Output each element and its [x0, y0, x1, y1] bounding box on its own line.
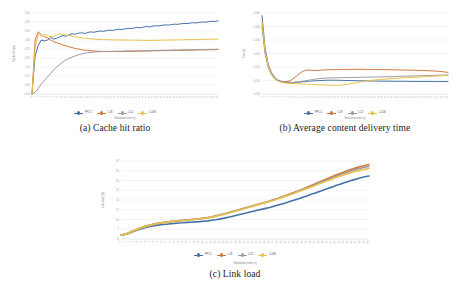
panel-caption-c: (c) Link load [95, 269, 375, 279]
results-figure: 0.000.050.100.150.200.250.300.350.400.45… [0, 0, 461, 296]
svg-text:0.35: 0.35 [25, 29, 31, 33]
svg-text:20: 20 [116, 198, 120, 202]
legend-swatch-cl4m [138, 113, 147, 115]
legend-label-cl4m: CL4M [149, 112, 156, 115]
legend-item-lce[interactable]: LCE [327, 112, 343, 115]
svg-text:0.45: 0.45 [25, 11, 31, 15]
legend-swatch-cl4m [258, 255, 267, 257]
legend-label-lcd: LCD [248, 254, 253, 257]
svg-text:2: 2 [127, 240, 131, 243]
legend-item-cl4m[interactable]: CL4M [368, 112, 385, 115]
svg-text:60: 60 [215, 95, 218, 99]
svg-text:60: 60 [366, 240, 370, 244]
svg-text:Time (s): Time (s) [242, 49, 246, 59]
chart-plot-area-b: 0.0000.0100.0200.0300.0400.0500.06001234… [238, 8, 452, 120]
chart-legend-c: PPCC LCE LCD CL4M [95, 254, 375, 257]
legend-label-lce: LCE [108, 112, 113, 115]
chart-plot-area-a: 0.000.050.100.150.200.250.300.350.400.45… [8, 8, 222, 120]
legend-label-lcd: LCD [358, 112, 363, 115]
svg-text:15: 15 [116, 208, 120, 212]
legend-label-lce: LCE [338, 112, 343, 115]
legend-swatch-lcd [348, 113, 357, 115]
legend-label-ppcc: PPCC [85, 112, 92, 115]
svg-text:0.020: 0.020 [254, 65, 261, 69]
legend-swatch-lcd [238, 255, 247, 257]
legend-label-lce: LCE [228, 254, 233, 257]
svg-text:5: 5 [117, 227, 119, 231]
legend-item-cl4m[interactable]: CL4M [258, 254, 275, 257]
svg-text:0.050: 0.050 [254, 25, 261, 29]
legend-swatch-lce [97, 113, 106, 115]
svg-text:3: 3 [131, 240, 135, 243]
line-chart-cache-hit-ratio: 0.000.050.100.150.200.250.300.350.400.45… [8, 8, 222, 120]
legend-label-ppcc: PPCC [205, 254, 212, 257]
legend-item-cl4m[interactable]: CL4M [138, 112, 155, 115]
svg-text:60: 60 [445, 95, 448, 99]
svg-text:0: 0 [119, 240, 123, 243]
legend-swatch-lce [217, 255, 226, 257]
svg-text:0.30: 0.30 [25, 38, 31, 42]
svg-text:6: 6 [143, 240, 147, 243]
svg-text:Cache hit ratio: Cache hit ratio [12, 45, 16, 62]
svg-text:Link load (%): Link load (%) [101, 192, 105, 208]
line-chart-link-load: 0510152025303540012345678910111213141516… [95, 155, 375, 265]
chart-panel-link-load: 0510152025303540012345678910111213141516… [95, 155, 375, 290]
svg-text:0.25: 0.25 [25, 47, 31, 51]
svg-text:0.010: 0.010 [254, 79, 261, 83]
chart-legend-a: PPCC LCE LCD CL4M [8, 112, 222, 115]
legend-label-lcd: LCD [128, 112, 133, 115]
svg-text:5: 5 [139, 240, 143, 243]
legend-label-ppcc: PPCC [315, 112, 322, 115]
svg-text:0.15: 0.15 [25, 65, 31, 69]
svg-text:0.040: 0.040 [254, 38, 261, 42]
legend-swatch-ppcc [194, 255, 203, 257]
legend-swatch-ppcc [304, 113, 313, 115]
svg-text:0.060: 0.060 [254, 11, 261, 15]
svg-text:Simulation time (s): Simulation time (s) [233, 261, 256, 265]
svg-text:Simulation time (s): Simulation time (s) [344, 116, 366, 120]
panel-caption-a: (a) Cache hit ratio [8, 123, 222, 133]
svg-text:40: 40 [116, 159, 120, 163]
svg-text:0.05: 0.05 [25, 83, 31, 87]
svg-text:30: 30 [116, 179, 120, 183]
legend-swatch-lce [327, 113, 336, 115]
svg-text:0.40: 0.40 [25, 20, 31, 24]
svg-text:4: 4 [135, 240, 139, 243]
legend-swatch-lcd [118, 113, 127, 115]
legend-swatch-ppcc [74, 113, 83, 115]
legend-label-cl4m: CL4M [379, 112, 386, 115]
svg-text:10: 10 [116, 218, 120, 222]
svg-text:Simulation time (s): Simulation time (s) [114, 116, 136, 120]
legend-item-ppcc[interactable]: PPCC [194, 254, 212, 257]
svg-text:0.030: 0.030 [254, 52, 261, 56]
legend-item-ppcc[interactable]: PPCC [74, 112, 92, 115]
svg-text:25: 25 [116, 188, 120, 192]
legend-label-cl4m: CL4M [269, 254, 276, 257]
legend-item-lcd[interactable]: LCD [238, 254, 254, 257]
legend-swatch-cl4m [368, 113, 377, 115]
svg-text:0.10: 0.10 [25, 74, 31, 78]
svg-text:1: 1 [123, 240, 127, 243]
svg-text:8: 8 [152, 240, 156, 243]
panel-caption-b: (b) Average content delivery time [238, 123, 452, 133]
legend-item-lcd[interactable]: LCD [348, 112, 364, 115]
chart-panel-cache-hit-ratio: 0.000.050.100.150.200.250.300.350.400.45… [8, 8, 222, 146]
legend-item-lcd[interactable]: LCD [118, 112, 134, 115]
legend-item-lce[interactable]: LCE [97, 112, 113, 115]
legend-item-ppcc[interactable]: PPCC [304, 112, 322, 115]
svg-text:0.20: 0.20 [25, 56, 31, 60]
chart-legend-b: PPCC LCE LCD CL4M [238, 112, 452, 115]
svg-text:7: 7 [148, 240, 152, 243]
line-chart-average-content-delivery-time: 0.0000.0100.0200.0300.0400.0500.06001234… [238, 8, 452, 120]
svg-text:35: 35 [116, 169, 120, 173]
legend-item-lce[interactable]: LCE [217, 254, 233, 257]
chart-plot-area-c: 0510152025303540012345678910111213141516… [95, 155, 375, 265]
chart-panel-average-content-delivery-time: 0.0000.0100.0200.0300.0400.0500.06001234… [238, 8, 452, 146]
